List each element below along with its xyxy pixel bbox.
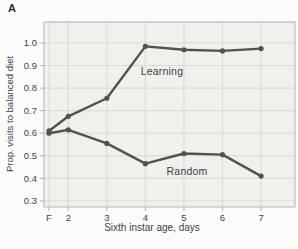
y-tick-label-0.4: 0.4	[24, 173, 37, 184]
y-tick-label-0.3: 0.3	[24, 195, 37, 206]
data-point-random-F	[46, 131, 51, 136]
figure-panel: A F2345670.30.40.50.60.70.80.91.0 Learni…	[0, 0, 298, 249]
y-tick-label-0.7: 0.7	[24, 105, 37, 116]
line-chart: F2345670.30.40.50.60.70.80.91.0	[0, 0, 298, 249]
series-label-learning: Learning	[141, 65, 183, 77]
data-point-random-7	[258, 173, 263, 178]
x-tick-label-2: 2	[66, 212, 71, 223]
x-axis-title: Sixth instar age, days	[104, 222, 200, 233]
data-point-learning-4	[143, 44, 148, 49]
y-axis-title: Prop. visits to balanced diet	[4, 56, 15, 172]
y-tick-label-0.6: 0.6	[24, 127, 37, 138]
data-point-learning-2	[66, 114, 71, 119]
y-tick-label-0.8: 0.8	[24, 82, 37, 93]
data-point-random-3	[104, 141, 109, 146]
data-point-random-6	[220, 152, 225, 157]
data-point-learning-7	[258, 46, 263, 51]
data-point-random-4	[143, 161, 148, 166]
y-tick-label-0.5: 0.5	[24, 150, 37, 161]
x-tick-label-6: 6	[220, 212, 225, 223]
x-tick-label-F: F	[46, 212, 52, 223]
x-tick-label-7: 7	[258, 212, 263, 223]
data-point-learning-6	[220, 48, 225, 53]
data-point-learning-5	[181, 47, 186, 52]
series-label-random: Random	[167, 165, 208, 177]
data-point-random-2	[66, 127, 71, 132]
data-point-random-5	[181, 151, 186, 156]
y-tick-label-0.9: 0.9	[24, 60, 37, 71]
y-tick-label-1.0: 1.0	[24, 37, 37, 48]
data-point-learning-3	[104, 96, 109, 101]
